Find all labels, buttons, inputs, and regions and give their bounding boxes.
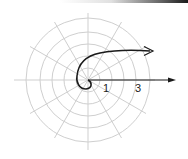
radius-label-3: 3: [135, 82, 141, 94]
polar-diagram: 1 3: [0, 0, 188, 159]
polar-axis: [88, 78, 176, 83]
radius-label-1: 1: [103, 82, 109, 94]
polar-grid: [14, 13, 155, 150]
radial-lines: [14, 13, 155, 150]
axis-arrowhead-icon: [168, 78, 176, 83]
